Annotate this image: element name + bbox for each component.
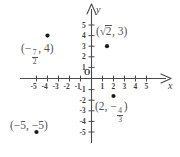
x-tick-label--5: -5 <box>31 83 37 90</box>
data-point-p2 <box>105 44 109 48</box>
y-tick-label--3: -3 <box>80 107 86 114</box>
point-label-p3-open: (2, − <box>95 100 117 112</box>
y-tick-label--5: -5 <box>80 129 86 136</box>
fraction-4-over-3: 43 <box>117 107 123 123</box>
y-tick-label--1: -1 <box>80 86 86 93</box>
fraction-7-over-2: 72 <box>32 49 38 65</box>
point-label-p3-rest: ) <box>124 100 128 112</box>
y-axis-label: y <box>96 5 100 15</box>
data-point-p3 <box>111 94 115 98</box>
point-label-p1-open: (− <box>21 42 31 54</box>
x-tick-label-4: 4 <box>134 83 138 90</box>
point-label-p1: (−72, 4) <box>21 43 53 65</box>
y-tick-label-2: 2 <box>82 53 86 60</box>
x-tick-label-3: 3 <box>123 83 127 90</box>
x-tick-label--2: -2 <box>64 83 70 90</box>
x-axis-label: x <box>168 81 172 91</box>
y-tick-label-5: 5 <box>82 22 86 29</box>
point-label-p2: (√2, 3) <box>96 25 127 38</box>
radicand: 2 <box>105 25 112 38</box>
y-tick-label--2: -2 <box>80 97 86 104</box>
radical-sqrt-2: √2 <box>100 25 112 38</box>
coordinate-plane-figure: y x O -5 -4 -3 -2 -1 1 2 3 4 5 5 4 3 2 1… <box>0 0 180 157</box>
point-label-p3: (2, −43) <box>95 101 127 123</box>
point-label-p2-rest: , 3) <box>112 25 127 37</box>
x-tick-label--3: -3 <box>53 83 59 90</box>
x-tick-label-5: 5 <box>145 83 149 90</box>
fraction-denominator: 3 <box>117 115 123 124</box>
point-label-p4: (−5, −5) <box>10 120 48 132</box>
y-tick-label--4: -4 <box>80 118 86 125</box>
y-tick-label-1: 1 <box>82 64 86 71</box>
fraction-numerator: 7 <box>32 49 38 57</box>
x-tick-label-2: 2 <box>112 83 116 90</box>
point-label-p1-rest: , 4) <box>38 42 53 54</box>
y-tick-label-4: 4 <box>82 32 86 39</box>
y-tick-label-3: 3 <box>82 43 86 50</box>
x-tick-label-1: 1 <box>101 83 105 90</box>
x-tick-label--4: -4 <box>42 83 48 90</box>
axes-svg <box>0 0 180 157</box>
fraction-numerator: 4 <box>117 107 123 115</box>
data-point-p1 <box>45 34 49 38</box>
fraction-denominator: 2 <box>32 57 38 66</box>
